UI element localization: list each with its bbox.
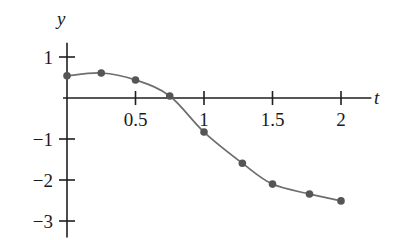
data-point-marker bbox=[132, 76, 140, 84]
chart-figure: y t 0.511.521−1−2−3 bbox=[0, 0, 414, 240]
y-tick-label: 1 bbox=[44, 48, 54, 67]
y-axis-label: y bbox=[57, 9, 65, 28]
data-point-marker bbox=[239, 159, 247, 167]
data-point-marker bbox=[63, 72, 71, 80]
x-tick-label: 1 bbox=[199, 110, 209, 129]
axis-ticks-group bbox=[59, 57, 341, 221]
y-tick-label: −3 bbox=[33, 212, 53, 231]
data-point-marker bbox=[337, 197, 345, 205]
x-tick-label: 1.5 bbox=[261, 110, 285, 129]
data-point-marker bbox=[306, 190, 314, 198]
data-point-marker bbox=[166, 92, 174, 100]
data-point-marker bbox=[269, 180, 277, 188]
x-tick-label: 0.5 bbox=[124, 110, 148, 129]
y-tick-label: −1 bbox=[33, 130, 53, 149]
y-tick-label: −2 bbox=[33, 171, 53, 190]
data-point-marker bbox=[97, 69, 105, 77]
data-points-group bbox=[63, 69, 345, 205]
x-tick-label: 2 bbox=[336, 110, 346, 129]
x-axis-label: t bbox=[374, 88, 379, 107]
axes-group bbox=[63, 43, 371, 238]
